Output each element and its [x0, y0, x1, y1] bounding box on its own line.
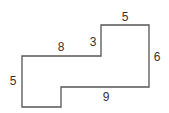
composite-shape-diagram: 5 3 8 6 5 9 [0, 0, 169, 113]
label-upper-left-horizontal: 8 [58, 40, 65, 54]
label-right: 6 [154, 50, 161, 64]
label-bottom-step: 9 [103, 90, 110, 104]
label-left: 5 [10, 74, 17, 88]
shape-outline [22, 25, 149, 107]
label-top: 5 [122, 10, 129, 24]
label-step-vertical: 3 [90, 35, 97, 49]
